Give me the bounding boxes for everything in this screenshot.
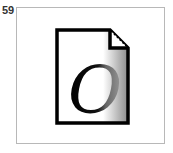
document-icon: O: [55, 28, 131, 125]
figure-number: 59: [2, 4, 14, 16]
letter-o-glyph: O: [68, 52, 122, 125]
